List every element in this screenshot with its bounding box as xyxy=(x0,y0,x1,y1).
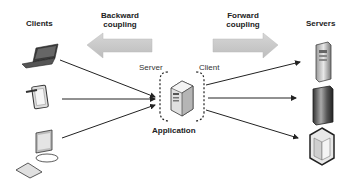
application-label: Application xyxy=(152,126,196,135)
server-interface-bracket xyxy=(160,72,168,121)
forward-coupling-label: Forward coupling xyxy=(218,11,268,29)
backward-coupling-label: Backward coupling xyxy=(95,11,145,29)
application-server-icon xyxy=(171,81,193,116)
desktop-icon xyxy=(16,130,58,178)
forward-coupling-line-2: coupling xyxy=(218,20,268,29)
client-interface-bracket xyxy=(196,72,204,121)
servers-label: Servers xyxy=(306,19,335,28)
backward-coupling-arrow xyxy=(87,33,152,58)
server-side-label: Server xyxy=(139,63,163,72)
tower-server-icon xyxy=(316,42,331,82)
clients-label: Clients xyxy=(26,19,53,28)
client-side-label: Client xyxy=(199,63,219,72)
tablet-icon xyxy=(26,85,48,109)
backward-coupling-line-1: Backward xyxy=(95,11,145,20)
diagram-canvas xyxy=(0,0,354,189)
application-to-server-arrows xyxy=(206,62,300,138)
rack-server-icon xyxy=(313,86,333,125)
cabinet-server-icon xyxy=(310,128,334,165)
laptop-icon xyxy=(22,44,58,68)
backward-coupling-line-2: coupling xyxy=(95,20,145,29)
forward-coupling-line-1: Forward xyxy=(218,11,268,20)
forward-coupling-arrow xyxy=(213,33,278,58)
